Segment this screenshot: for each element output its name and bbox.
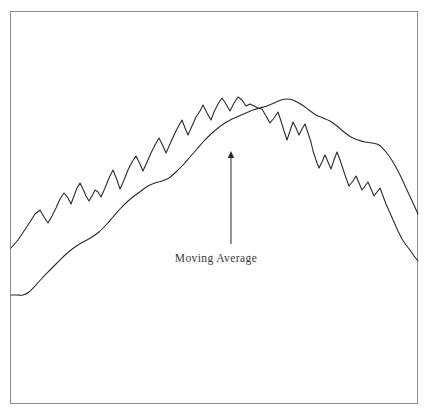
price-series-line bbox=[11, 97, 418, 261]
annotation-arrow-head bbox=[228, 151, 234, 158]
moving-average-series-line bbox=[11, 99, 418, 295]
annotation-arrow-group bbox=[228, 151, 234, 244]
series-group bbox=[11, 97, 418, 295]
moving-average-figure: Moving Average bbox=[0, 0, 428, 415]
chart-canvas bbox=[0, 0, 428, 415]
